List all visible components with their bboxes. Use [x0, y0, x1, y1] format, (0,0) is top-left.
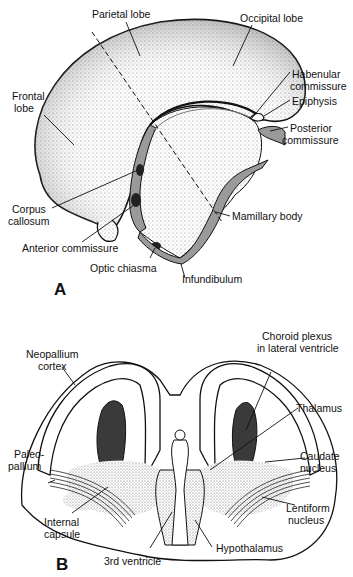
panel-letter-b: B — [56, 555, 68, 575]
label-internal-line2: capsule — [44, 528, 80, 540]
label-internal-line1: Internal — [44, 516, 79, 528]
label-habenular-line2: commissure — [290, 80, 347, 92]
label-occipital-lobe: Occipital lobe — [240, 12, 303, 24]
label-posterior-line1: Posterior — [290, 122, 332, 134]
label-third-ventricle: 3rd ventricle — [104, 555, 161, 567]
label-neopallium-line1: Neopallium — [26, 348, 79, 360]
label-frontal-lobe-line1: Frontal — [12, 90, 45, 102]
label-epiphysis: Epiphysis — [292, 95, 337, 107]
label-lentiform-line2: nucleus — [288, 514, 324, 526]
panel-letter-a: A — [54, 280, 66, 300]
label-optic-chiasma: Optic chiasma — [90, 262, 157, 274]
pineal-knot — [175, 430, 185, 440]
label-caudate-line1: Caudate — [300, 450, 340, 462]
panel-a-sagittal — [35, 19, 305, 278]
anterior-commissure-body — [131, 193, 141, 207]
label-corpus-line2: callosum — [8, 215, 49, 227]
label-paleo-line1: Paleo- — [14, 448, 44, 460]
label-choroid-line2: in lateral ventricle — [257, 342, 339, 354]
label-infundibulum: Infundibulum — [182, 273, 242, 285]
label-parietal-lobe: Parietal lobe — [92, 8, 150, 20]
label-mamillary-body: Mamillary body — [232, 210, 303, 222]
label-posterior-line2: commissure — [282, 134, 339, 146]
label-lentiform-line1: Lentiform — [286, 502, 330, 514]
label-corpus-line1: Corpus — [12, 203, 46, 215]
label-thalamus: Thalamus — [296, 402, 342, 414]
label-hypothalamus: Hypothalamus — [216, 542, 283, 554]
label-anterior-commissure: Anterior commissure — [22, 242, 118, 254]
label-choroid-line1: Choroid plexus — [262, 330, 332, 342]
label-frontal-lobe-line2: lobe — [14, 102, 34, 114]
label-caudate-line2: nucleus — [300, 462, 336, 474]
label-paleo-line2: pallium — [8, 460, 41, 472]
label-habenular-line1: Habenular — [292, 68, 340, 80]
label-neopallium-line2: cortex — [38, 360, 67, 372]
